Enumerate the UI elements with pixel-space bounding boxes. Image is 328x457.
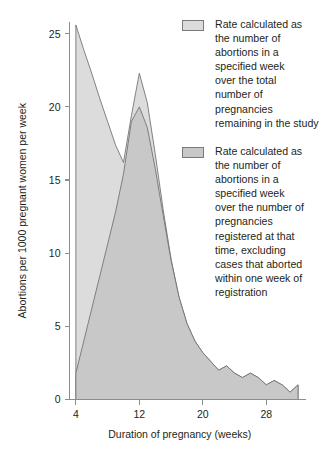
y-tick-label: 20 — [49, 101, 61, 113]
legend-swatch-icon — [182, 147, 204, 158]
x-tick-label: 28 — [260, 408, 272, 420]
x-tick-label: 4 — [73, 408, 79, 420]
legend-entry-label: Rate calculated as the number of abortio… — [215, 17, 319, 130]
x-axis-title: Duration of pregnancy (weeks) — [108, 428, 251, 440]
legend-entry-registered-excluding: Rate calculated as the number of abortio… — [182, 144, 304, 299]
legend-entry-label: Rate calculated as the number of abortio… — [215, 144, 304, 299]
legend-swatch-icon — [182, 20, 204, 31]
y-tick-label: 25 — [49, 28, 61, 40]
x-tick-label: 12 — [133, 408, 145, 420]
y-tick-label: 0 — [55, 393, 61, 405]
y-tick-label: 15 — [49, 174, 61, 186]
chart-figure: 05101520254122028Duration of pregnancy (… — [0, 0, 328, 457]
x-tick-label: 20 — [197, 408, 209, 420]
y-axis-title: Abortions per 1000 pregnant women per we… — [16, 102, 28, 318]
y-tick-label: 5 — [55, 320, 61, 332]
y-tick-label: 10 — [49, 247, 61, 259]
legend-entry-total-remaining: Rate calculated as the number of abortio… — [182, 17, 319, 130]
